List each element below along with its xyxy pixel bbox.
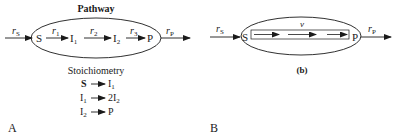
node-i2: I2 (113, 32, 121, 46)
panel-b-caption: (b) (297, 65, 308, 75)
panel-a-label: A (8, 121, 17, 135)
pathway-title: Pathway (77, 3, 114, 14)
stoich-row-1: S I1 (81, 78, 115, 91)
output-rate-label-b: rP (368, 23, 376, 36)
stoich-row-3: I2 P (80, 106, 114, 119)
svg-text:I1: I1 (80, 92, 87, 105)
panel-b-label: B (210, 121, 218, 135)
node-i1: I1 (70, 32, 78, 46)
panel-a: Pathway rS S I1 I2 P r1 r2 r3 rP Stoichi… (5, 3, 190, 135)
flux-label: v (300, 19, 304, 29)
panel-b: rS S v P rP (b) B (210, 17, 391, 135)
node-s: S (36, 32, 42, 44)
input-rate-label: rS (12, 25, 20, 38)
svg-text:I2: I2 (80, 106, 87, 119)
svg-text:2I2: 2I2 (108, 92, 120, 105)
svg-text:S: S (81, 78, 87, 89)
svg-text:I1: I1 (108, 78, 115, 91)
stoichiometry-title: Stoichiometry (68, 65, 125, 76)
output-rate-label: rP (166, 25, 174, 38)
diagram-canvas: Pathway rS S I1 I2 P r1 r2 r3 rP Stoichi… (0, 0, 394, 138)
rate-r3: r3 (130, 25, 138, 38)
svg-text:P: P (108, 106, 114, 117)
rate-r2: r2 (90, 25, 98, 38)
input-rate-label-b: rS (216, 23, 224, 36)
stoich-row-2: I1 2I2 (80, 92, 120, 105)
rate-r1: r1 (52, 25, 60, 38)
node-s-b: S (242, 31, 248, 43)
node-p-b: P (352, 31, 358, 43)
node-p: P (147, 32, 153, 44)
